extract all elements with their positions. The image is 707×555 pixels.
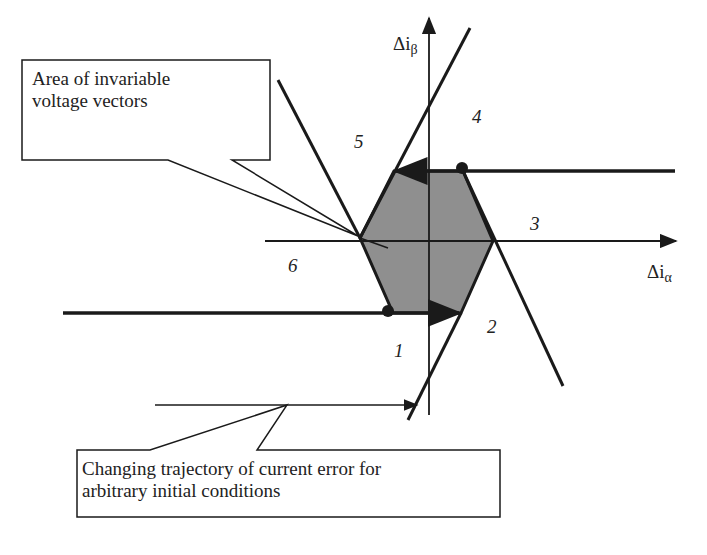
bottom-callout-text: Changing trajectory of current error for… [82,458,381,502]
beta-axis-label: Δiβ [393,33,418,58]
top-callout-line1: Area of invariable [32,68,170,90]
beta-subscript: β [411,42,418,57]
top-callout-line2: voltage vectors [32,90,170,112]
trajectory-top-start-dot [456,162,468,174]
bottom-callout-line1: Changing trajectory of current error for [82,458,381,480]
sector-5-label: 5 [354,131,364,153]
alpha-axis-label-text: Δi [647,261,665,282]
boundary-line-descending-right [463,171,563,386]
sector-4-label: 4 [472,106,482,128]
boundary-line-ascending-lower [408,313,461,420]
bottom-callout-line2: arbitrary initial conditions [82,480,381,502]
sector-6-label: 6 [288,255,298,277]
sector-2-label: 2 [487,316,497,338]
sector-3-label: 3 [530,213,540,235]
beta-axis-label-text: Δi [393,33,411,54]
sector-1-label: 1 [394,340,404,362]
top-callout-text: Area of invariable voltage vectors [32,68,170,112]
alpha-axis-label: Δiα [647,261,672,286]
alpha-subscript: α [665,270,672,285]
trajectory-bottom-dot [382,305,394,317]
